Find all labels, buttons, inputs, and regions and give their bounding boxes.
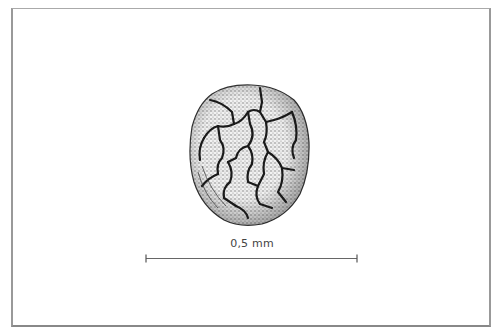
scale-bar: [145, 254, 358, 263]
scale-bar-label: 0,5 mm: [222, 237, 282, 250]
seed-illustration: [182, 82, 318, 228]
